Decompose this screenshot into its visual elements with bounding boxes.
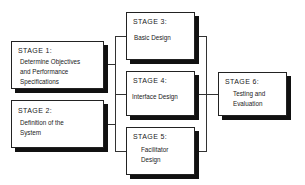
connector-to-stage4 xyxy=(115,94,126,95)
connector-stage1-out xyxy=(104,64,115,65)
stage-3-description: Basic Design xyxy=(134,33,171,43)
stage-1-title: STAGE 1: xyxy=(18,47,52,55)
stage-6-title: STAGE 6: xyxy=(225,78,259,86)
stage-1-box: STAGE 1: Determine Objectives and Perfor… xyxy=(11,41,104,89)
stage-2-description: Definition of the System xyxy=(20,118,64,138)
connector-to-stage6 xyxy=(206,94,218,95)
stage-6-description: Testing and Evaluation xyxy=(233,89,265,109)
stage-6-box: STAGE 6: Testing and Evaluation xyxy=(218,72,287,116)
stage-2-box: STAGE 2: Definition of the System xyxy=(11,100,104,148)
stage-3-title: STAGE 3: xyxy=(133,18,167,26)
stage-4-title: STAGE 4: xyxy=(133,77,167,85)
connector-stage2-out xyxy=(104,124,115,125)
stage-4-description: Interface Design xyxy=(132,92,178,102)
connector-to-stage3 xyxy=(115,36,126,37)
stage-5-box: STAGE 5: Facilitator Design xyxy=(126,127,195,175)
stage-1-description: Determine Objectives and Performance Spe… xyxy=(20,57,80,87)
stage-4-box: STAGE 4: Interface Design xyxy=(126,71,195,116)
connector-stage3-out xyxy=(199,36,206,37)
connector-stage5-out xyxy=(199,151,206,152)
stage-5-title: STAGE 5: xyxy=(133,133,167,141)
stage-5-description: Facilitator Design xyxy=(141,145,168,165)
connector-stage4-out xyxy=(199,94,206,95)
stage-2-title: STAGE 2: xyxy=(18,107,52,115)
stage-3-box: STAGE 3: Basic Design xyxy=(126,12,195,60)
connector-to-stage5 xyxy=(115,151,126,152)
